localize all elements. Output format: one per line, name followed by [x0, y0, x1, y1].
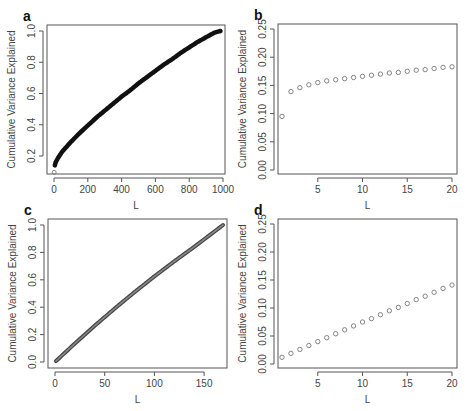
figure-canvas: a02004006008001000L0.20.40.60.81.0Cumula… [0, 0, 472, 411]
dense-curve [55, 31, 221, 165]
data-point [405, 301, 409, 305]
y-axis-label: Cumulative Variance Explained [6, 30, 17, 168]
data-point [280, 355, 284, 359]
data-point [289, 89, 293, 93]
panel-c: c050100150L0.00.20.40.60.81.0Cumulative … [7, 202, 227, 405]
y-tick-label: 0.2 [27, 327, 38, 341]
x-tick-label: 10 [357, 184, 369, 195]
data-series [280, 283, 454, 360]
y-tick-label: 0.8 [26, 55, 37, 69]
panel-a: a02004006008001000L0.20.40.60.81.0Cumula… [6, 8, 235, 211]
x-axis-label: L [365, 394, 371, 405]
data-series [52, 31, 220, 174]
data-point [369, 73, 373, 77]
y-tick-label: 1.0 [27, 218, 38, 232]
data-point [333, 78, 337, 82]
plot-frame [278, 219, 457, 368]
y-tick-label: 1.0 [26, 24, 37, 38]
y-tick-label: 0.4 [27, 300, 38, 314]
panel-letter-c: c [24, 202, 32, 218]
y-tick-label: 0.25 [257, 19, 268, 39]
x-tick-label: 150 [196, 378, 213, 389]
y-tick-label: 0.10 [257, 103, 268, 123]
y-tick-label: 0.6 [26, 86, 37, 100]
data-point [432, 290, 436, 294]
data-point [378, 72, 382, 76]
data-point [396, 70, 400, 74]
y-tick-label: 0.2 [26, 149, 37, 163]
x-axis-label: L [135, 394, 141, 405]
data-point [369, 316, 373, 320]
x-tick-label: 15 [402, 184, 414, 195]
panel-d: d5101520L0.000.050.100.150.200.25Cumulat… [237, 202, 458, 405]
x-tick-label: 0 [51, 184, 57, 195]
data-point [342, 328, 346, 332]
y-tick-label: 0.05 [257, 326, 268, 346]
plot-frame [47, 25, 225, 174]
x-tick-label: 600 [147, 184, 164, 195]
data-point [441, 65, 445, 69]
y-tick-label: 0.8 [27, 245, 38, 259]
data-point [307, 83, 311, 87]
x-tick-label: 200 [79, 184, 96, 195]
data-point [316, 339, 320, 343]
x-tick-label: 5 [315, 184, 321, 195]
y-tick-label: 0.25 [257, 214, 268, 234]
data-point [378, 313, 382, 317]
y-tick-label: 0.20 [257, 47, 268, 67]
data-point [450, 283, 454, 287]
data-point [432, 66, 436, 70]
data-point [325, 79, 329, 83]
plot-frame [278, 24, 457, 174]
x-tick-label: 800 [181, 184, 198, 195]
data-series [56, 225, 223, 361]
data-point [396, 305, 400, 309]
data-point [423, 67, 427, 71]
dense-curve-outline [56, 225, 223, 361]
x-tick-label: 5 [315, 378, 321, 389]
data-point [307, 343, 311, 347]
data-point [351, 324, 355, 328]
x-tick-label: 20 [446, 184, 458, 195]
y-axis-label: Cumulative Variance Explained [237, 224, 248, 362]
data-point [360, 320, 364, 324]
data-series [280, 65, 454, 119]
y-axis-label: Cumulative Variance Explained [7, 224, 18, 362]
data-point [333, 332, 337, 336]
x-axis-label: L [365, 200, 371, 211]
data-point [280, 114, 284, 118]
x-tick-label: 1000 [212, 184, 235, 195]
figure-2x2-grid: a02004006008001000L0.20.40.60.81.0Cumula… [0, 0, 472, 411]
y-tick-label: 0.05 [257, 132, 268, 152]
y-tick-label: 0.00 [257, 160, 268, 180]
data-point [405, 69, 409, 73]
data-point [298, 85, 302, 89]
data-point [298, 347, 302, 351]
data-point [289, 351, 293, 355]
y-axis-label: Cumulative Variance Explained [237, 30, 248, 168]
data-point [387, 71, 391, 75]
data-point [360, 74, 364, 78]
x-tick-label: 20 [446, 378, 458, 389]
data-point [325, 335, 329, 339]
y-tick-label: 0.20 [257, 242, 268, 262]
y-tick-label: 0.6 [27, 272, 38, 286]
panel-letter-a: a [23, 8, 31, 24]
data-point [450, 65, 454, 69]
x-axis-label: L [133, 200, 139, 211]
data-point [351, 75, 355, 79]
x-tick-label: 15 [402, 378, 414, 389]
data-point [414, 297, 418, 301]
x-tick-label: 10 [357, 378, 369, 389]
data-point [423, 294, 427, 298]
y-tick-label: 0.0 [27, 355, 38, 369]
x-tick-label: 50 [99, 378, 111, 389]
data-point [441, 286, 445, 290]
y-tick-label: 0.15 [257, 270, 268, 290]
y-tick-label: 0.4 [26, 117, 37, 131]
x-tick-label: 100 [146, 378, 163, 389]
panel-b: b5101520L0.000.050.100.150.200.25Cumulat… [237, 7, 458, 211]
data-point [387, 309, 391, 313]
data-point [414, 68, 418, 72]
y-tick-label: 0.10 [257, 298, 268, 318]
